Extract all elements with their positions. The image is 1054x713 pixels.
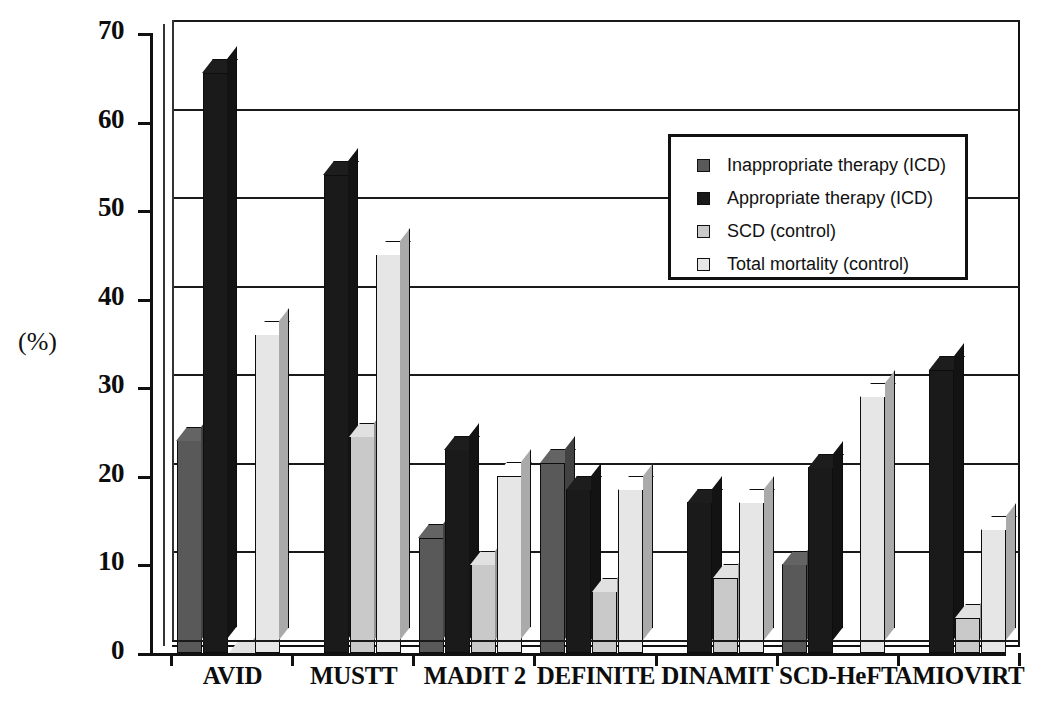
bar — [687, 502, 712, 653]
bar — [255, 334, 280, 653]
baseline-front — [150, 653, 1006, 656]
bar-side-face — [764, 476, 774, 639]
legend-item: Inappropriate therapy (ICD) — [697, 149, 965, 181]
legend-item: SCD (control) — [697, 215, 965, 247]
legend-item-label: SCD (control) — [727, 221, 836, 242]
legend-swatch-icon — [697, 192, 710, 205]
bar — [350, 436, 375, 653]
bar — [592, 591, 617, 653]
x-axis-tick — [170, 653, 173, 666]
bar-chart: 706050403020100 (%) AVIDMUSTTMADIT 2DEFI… — [0, 0, 1054, 713]
bar — [981, 529, 1006, 653]
bar — [324, 175, 349, 653]
bars-layer — [0, 0, 1054, 713]
bar — [955, 618, 980, 653]
legend-item-label: Appropriate therapy (ICD) — [727, 188, 933, 209]
bar-side-face — [279, 308, 289, 640]
legend-swatch-icon — [697, 225, 710, 238]
bar-side-face — [643, 463, 653, 640]
bar-side-face — [885, 370, 895, 640]
legend-swatch-icon — [697, 258, 710, 271]
legend-item: Appropriate therapy (ICD) — [697, 182, 965, 214]
bar-side-face — [954, 343, 964, 639]
bar-side-face — [521, 450, 531, 640]
x-axis-label-amiovirt: AMIOVIRT — [874, 662, 1044, 690]
legend-item-label: Inappropriate therapy (ICD) — [727, 155, 946, 176]
bar — [739, 502, 764, 653]
baseline-back — [172, 640, 1020, 642]
legend-item-label: Total mortality (control) — [727, 254, 909, 275]
bar — [445, 449, 470, 653]
bar — [203, 73, 228, 653]
legend-item: Total mortality (control) — [697, 248, 965, 280]
bar — [177, 440, 202, 653]
bar-side-face — [1006, 503, 1016, 640]
bar-side-face — [400, 228, 410, 639]
bar — [860, 396, 885, 653]
chart-legend: Inappropriate therapy (ICD)Appropriate t… — [668, 134, 968, 280]
bar — [929, 370, 954, 653]
bar — [808, 467, 833, 653]
bar — [540, 463, 565, 653]
bar-side-face — [833, 441, 843, 640]
bar-side-face — [227, 47, 237, 640]
bar — [376, 254, 401, 653]
bar — [618, 489, 643, 653]
bar — [497, 476, 522, 653]
bar — [566, 489, 591, 653]
bar — [419, 538, 444, 653]
legend-swatch-icon — [697, 159, 710, 172]
